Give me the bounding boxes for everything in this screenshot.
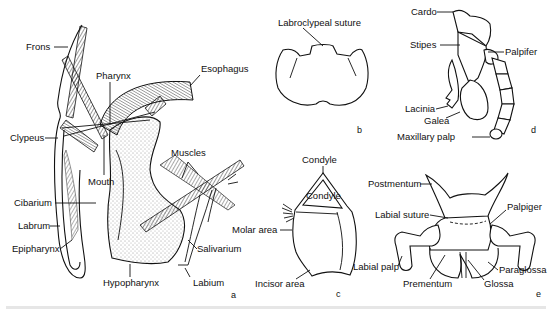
mandible-ridge [296, 212, 338, 214]
suture-line-right [348, 58, 356, 76]
leader-labium [185, 268, 190, 277]
label-postmentum: Postmentum [368, 178, 421, 189]
palp-segment [492, 58, 508, 74]
label-paraglossa: Paraglossa [499, 264, 547, 275]
label-labroclypeal-suture: Labroclypeal suture [278, 17, 361, 28]
leader-labroclypeal-suture [303, 28, 323, 46]
label-pharynx: Pharynx [96, 70, 131, 81]
label-cardo: Cardo [411, 6, 437, 17]
palp-segment [496, 74, 512, 90]
label-molar-area: Molar area [232, 224, 278, 235]
hypopharynx-body [108, 117, 185, 264]
panel-letter-b: b [357, 125, 362, 135]
muscle-bundle [160, 155, 235, 210]
insect-mouthparts-figure: Frons Pharynx Esophagus Clypeus Muscles … [0, 0, 555, 310]
leader-esophagus [190, 75, 200, 86]
label-condyle-outer: Condyle [302, 154, 337, 165]
panel-c-drawing [282, 173, 356, 276]
label-incisor-area: Incisor area [255, 278, 305, 289]
galea [460, 80, 488, 120]
leader-lacinia [436, 106, 448, 109]
label-glossa: Glossa [484, 278, 514, 289]
label-epipharynx: Epipharynx [12, 243, 60, 254]
mandible-inner-edge [337, 212, 343, 270]
panel-letter-c: c [336, 289, 341, 299]
label-stipes: Stipes [410, 39, 437, 50]
palp-tip [490, 129, 502, 139]
label-labrum: Labrum [18, 220, 50, 231]
leader-glossa [468, 260, 484, 280]
mandible-outline [293, 173, 356, 276]
label-lacinia: Lacinia [405, 103, 436, 114]
label-prementum: Prementum [403, 278, 452, 289]
label-galea: Galea [424, 115, 450, 126]
label-condyle-inner: Condyle [306, 190, 341, 201]
labial-suture [450, 221, 486, 224]
lacinia [446, 60, 459, 108]
label-hypopharynx: Hypopharynx [103, 277, 159, 288]
palp-segment [500, 88, 514, 104]
leader-labial-suture [430, 215, 448, 218]
panel-d-drawing [446, 10, 514, 139]
molar-bristles [282, 204, 294, 222]
label-maxillary-palp: Maxillary palp [397, 131, 455, 142]
label-salivarium: Salivarium [197, 243, 241, 254]
postmentum [426, 173, 508, 218]
label-labial-palp: Labial palp [353, 261, 399, 272]
palp-segment [498, 104, 514, 120]
caption-strip [6, 306, 546, 309]
label-muscles: Muscles [171, 147, 206, 158]
label-cibarium: Cibarium [14, 197, 52, 208]
label-labium: Labium [193, 277, 224, 288]
label-mouth: Mouth [88, 176, 114, 187]
label-palpifer: Palpifer [505, 46, 537, 57]
leader-palpiger [490, 210, 506, 224]
labial-palp-left [395, 225, 440, 271]
label-clypeus: Clypeus [10, 132, 45, 143]
panel-b-drawing [276, 45, 368, 106]
panel-letter-a: a [231, 290, 236, 300]
leader-prementum [430, 255, 445, 279]
labrum-plate [276, 45, 368, 106]
label-palpiger: Palpiger [507, 201, 542, 212]
label-labial-suture: Labial suture [375, 209, 429, 220]
cibarium-wall [64, 150, 78, 240]
panel-letter-d: d [531, 125, 536, 135]
panel-letter-e: e [536, 289, 541, 299]
suture-line-left [290, 58, 297, 78]
label-esophagus: Esophagus [201, 63, 249, 74]
label-frons: Frons [26, 41, 51, 52]
